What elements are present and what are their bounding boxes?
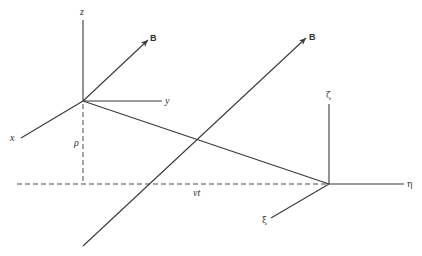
diagram-canvas: z y x B B ρ vt ζ η ξ (0, 0, 422, 256)
z-label: z (79, 6, 84, 17)
x-label: x (9, 132, 15, 143)
zeta-label: ζ (326, 90, 331, 100)
xi-axis (271, 184, 329, 218)
separation-line (83, 101, 329, 184)
b-label-field-line: B (309, 32, 316, 42)
eta-label: η (407, 179, 412, 189)
xi-label: ξ (262, 215, 267, 225)
y-label: y (164, 95, 170, 106)
vt-label: vt (193, 187, 200, 198)
rho-label: ρ (73, 137, 79, 148)
x-axis (21, 101, 83, 138)
b-field-arrow-local (83, 40, 148, 101)
b-label-local: B (150, 33, 157, 43)
